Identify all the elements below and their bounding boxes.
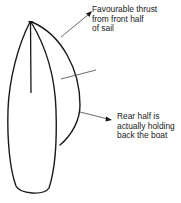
boat-hull-outline [8, 22, 56, 193]
front-thrust-label-line-3: of sail [92, 24, 157, 34]
thrust-arrow-line [61, 14, 89, 37]
front-thrust-label: Favourable thrust from front half of sai… [92, 5, 157, 34]
rear-drag-label: Rear half is actually holding back the b… [117, 112, 175, 141]
sail-midpoint-divider [61, 70, 96, 79]
mast-line [31, 22, 32, 93]
drag-arrow-line [80, 112, 108, 119]
drag-arrow-head-icon [106, 117, 113, 122]
rear-drag-label-line-3: back the boat [117, 131, 175, 141]
